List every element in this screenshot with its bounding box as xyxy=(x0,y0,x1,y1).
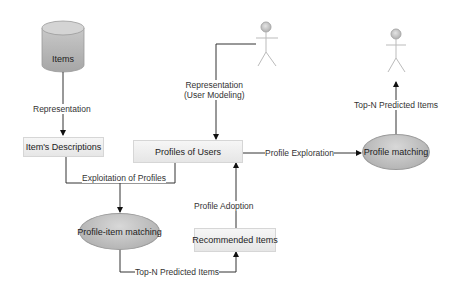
recommended-items-node[interactable]: Recommended Items xyxy=(194,228,276,252)
items-database-icon xyxy=(42,21,84,72)
profile-adoption-label: Profile Adoption xyxy=(194,201,254,211)
exploitation-of-profiles-label: Exploitation of Profiles xyxy=(82,173,166,183)
profile-exploration-label: Profile Exploration xyxy=(265,148,334,158)
profile-matching-node[interactable]: Profile matching xyxy=(362,134,430,170)
user-modeling-line: (User Modeling) xyxy=(184,90,244,100)
user-actor-icon xyxy=(256,22,278,66)
profile-item-matching-node[interactable]: Profile-item matching xyxy=(79,213,160,250)
representation-user-modeling-label: Representation (User Modeling) xyxy=(184,80,244,100)
top-n-predicted-items-right-label: Top-N Predicted Items xyxy=(354,100,438,110)
user-actor-icon xyxy=(386,29,406,72)
item-descriptions-node[interactable]: Item's Descriptions xyxy=(23,137,104,157)
profiles-of-users-node[interactable]: Profiles of Users xyxy=(133,140,243,163)
representation-line: Representation xyxy=(184,80,244,90)
items-node-label: Items xyxy=(52,54,74,64)
representation-label: Representation xyxy=(33,104,91,114)
top-n-predicted-items-bottom-label: Top-N Predicted Items xyxy=(135,267,219,277)
